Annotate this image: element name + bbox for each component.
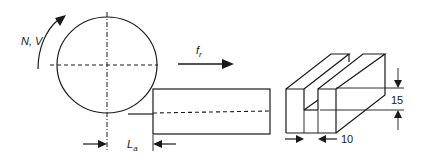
right-side-face bbox=[336, 54, 385, 133]
arrow-down-icon bbox=[394, 80, 402, 88]
contact-length-label: La bbox=[127, 138, 138, 153]
rotation-label: N, V bbox=[21, 35, 44, 47]
workpiece-cut-line bbox=[153, 111, 270, 113]
width-value: 10 bbox=[341, 133, 353, 145]
feed-label: fr bbox=[196, 44, 202, 59]
slotted-block bbox=[286, 54, 385, 133]
arrow-right-icon bbox=[98, 140, 107, 148]
grinding-wheel bbox=[50, 12, 158, 150]
contact-length-label-sub: a bbox=[133, 144, 138, 153]
arrow-left-icon bbox=[318, 135, 326, 143]
feed-arrow-icon bbox=[178, 59, 234, 69]
depth-value: 15 bbox=[391, 94, 403, 106]
slot-floor bbox=[304, 100, 318, 110]
arrow-up-icon bbox=[394, 110, 402, 118]
width-dimension bbox=[285, 135, 337, 143]
right-front-face bbox=[286, 89, 336, 133]
grinding-diagram: N, V fr La bbox=[0, 0, 425, 160]
arrow-left-icon bbox=[153, 140, 162, 148]
arrow-right-icon bbox=[296, 135, 304, 143]
feed-label-sub: r bbox=[199, 50, 202, 59]
left-front-face bbox=[286, 89, 304, 133]
right-top-face bbox=[318, 54, 385, 89]
workpiece bbox=[128, 89, 270, 134]
